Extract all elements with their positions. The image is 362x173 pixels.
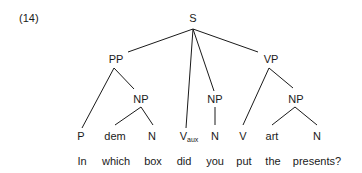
word-box: box [144,155,162,167]
word-in: In [77,155,86,167]
edge-s-vp [193,29,258,52]
node-vp: VP [264,53,279,65]
pre-dem: dem [104,130,125,142]
pre-art: art [266,130,279,142]
edge-vp-v [243,68,269,125]
edge-vp-np [269,68,293,88]
node-np-obj: NP [288,93,303,105]
pre-v: V [239,130,246,142]
edge-s-pp [128,29,193,52]
edge-np-n [141,107,153,125]
word-did: did [177,155,192,167]
edge-np-n3 [295,107,317,125]
node-s: S [189,12,196,24]
edge-np-art [272,107,295,125]
tree-edges [0,0,362,173]
pre-vaux: Vaux [180,130,199,146]
word-put: put [236,155,251,167]
word-you: you [206,155,224,167]
edge-pp-np [114,68,134,89]
edge-pp-p [82,68,114,128]
pre-n: N [148,130,156,142]
pre-n3: N [313,130,321,142]
node-pp: PP [109,53,124,65]
edge-s-np [193,29,214,91]
edge-s-vaux [186,29,193,128]
word-the: the [265,155,280,167]
edge-np-dem [115,107,141,125]
node-np-pp: NP [133,93,148,105]
node-np-subj: NP [207,93,222,105]
pre-p: P [77,130,84,142]
word-which: which [102,155,130,167]
pre-n2: N [211,130,219,142]
word-presents: presents? [293,155,341,167]
